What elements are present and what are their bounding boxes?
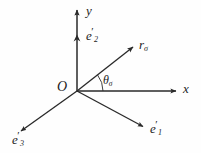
e3-basis-vector-label: e′3 — [12, 133, 24, 146]
e3-vector-line — [21, 91, 77, 131]
diagram-canvas — [0, 0, 201, 153]
e1-subscript: 1 — [158, 128, 162, 137]
e2-basis-vector-label: e′2 — [86, 29, 98, 42]
theta-subscript: σ — [109, 79, 113, 88]
r-sigma-vector-label: rσ — [139, 38, 148, 51]
x-axis-label: x — [183, 82, 189, 95]
e1-basis-vector-label: e′1 — [150, 122, 162, 135]
vector-diagram-figure: y e′2 rσ x O θσ e′1 e′3 — [0, 0, 201, 153]
e3-subscript: 3 — [20, 139, 24, 148]
theta-sigma-angle-label: θσ — [103, 74, 113, 86]
e2-subscript: 2 — [94, 35, 98, 44]
y-axis-label: y — [86, 4, 92, 17]
e1-vector-line — [77, 91, 143, 127]
origin-label: O — [57, 80, 67, 94]
r-sigma-subscript: σ — [144, 44, 148, 53]
